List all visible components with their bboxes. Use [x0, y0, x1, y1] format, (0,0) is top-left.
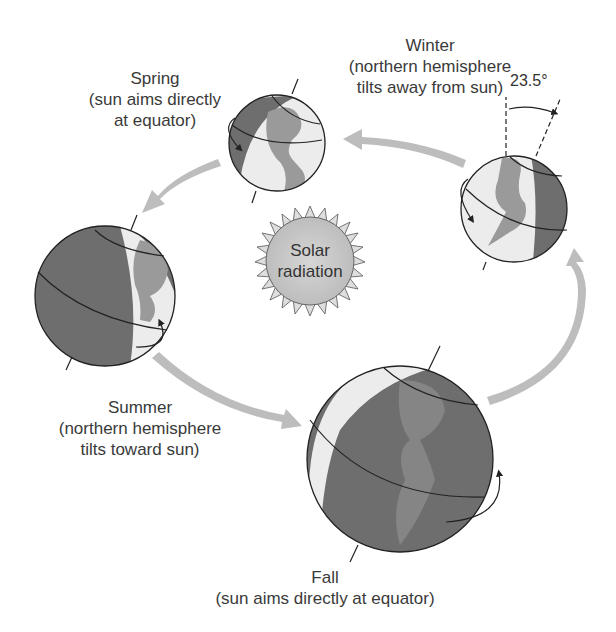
- fall-title: Fall: [180, 567, 470, 588]
- summer-desc-2: tilts toward sun): [40, 439, 240, 460]
- globe-fall: [300, 346, 500, 562]
- globe-summer: [35, 215, 176, 370]
- solar-label-line1: Solar: [262, 240, 358, 261]
- winter-desc-2: tilts away from sun): [330, 77, 530, 98]
- fall-desc: (sun aims directly at equator): [180, 588, 470, 609]
- solar-radiation-label: Solar radiation: [262, 240, 358, 282]
- tilt-angle-label: 23.5°: [510, 72, 548, 90]
- arrow-winter-to-spring: [343, 129, 466, 168]
- arrow-fall-to-winter: [487, 248, 586, 405]
- fall-label: Fall (sun aims directly at equator): [180, 567, 470, 609]
- winter-label: Winter (northern hemisphere tilts away f…: [330, 35, 530, 98]
- summer-desc-1: (northern hemisphere: [40, 418, 240, 439]
- summer-title: Summer: [40, 397, 240, 418]
- summer-label: Summer (northern hemisphere tilts toward…: [40, 397, 240, 460]
- globe-winter: [461, 97, 580, 270]
- winter-desc-1: (northern hemisphere: [330, 56, 530, 77]
- spring-label: Spring (sun aims directly at equator): [60, 68, 250, 131]
- spring-desc-2: at equator): [60, 110, 250, 131]
- spring-title: Spring: [60, 68, 250, 89]
- spring-desc-1: (sun aims directly: [60, 89, 250, 110]
- winter-title: Winter: [330, 35, 530, 56]
- solar-label-line2: radiation: [262, 261, 358, 282]
- arrow-spring-to-summer: [142, 159, 221, 213]
